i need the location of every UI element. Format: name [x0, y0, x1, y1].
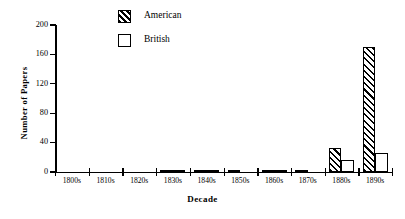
- x-axis-tick: [190, 168, 191, 176]
- x-axis-title: Decade: [0, 194, 405, 204]
- x-axis-tick: [122, 168, 123, 176]
- x-axis-tick: [392, 168, 393, 176]
- bar-american-1860s: [262, 170, 275, 172]
- bar-british-1830s: [173, 170, 186, 172]
- legend-item-british: British: [118, 28, 258, 52]
- bar-american-1840s: [194, 170, 207, 172]
- y-axis-tick-label: 160: [22, 50, 48, 58]
- x-axis-tick: [325, 168, 326, 176]
- y-axis-tick: [50, 113, 56, 114]
- bar-british-1890s: [375, 153, 388, 172]
- bar-american-1850s: [228, 170, 241, 172]
- x-axis-tick: [358, 168, 359, 176]
- bar-american-1890s: [363, 47, 376, 172]
- y-axis-tick-label: 0: [22, 168, 48, 176]
- y-axis-tick-label: 120: [22, 80, 48, 88]
- legend-label-british: British: [144, 35, 170, 45]
- y-axis-tick: [50, 142, 56, 143]
- bar-american-1870s: [295, 170, 308, 172]
- y-axis-tick-label: 80: [22, 109, 48, 117]
- y-axis-tick: [50, 83, 56, 84]
- legend-swatch-american-icon: [118, 10, 131, 23]
- y-axis-line: [55, 25, 57, 173]
- legend-label-american: American: [144, 11, 181, 21]
- y-axis-tick: [50, 24, 56, 25]
- bar-british-1860s: [274, 170, 287, 172]
- x-axis-tick: [224, 168, 225, 176]
- x-axis-tick: [55, 168, 56, 176]
- x-axis-tick: [291, 168, 292, 176]
- x-axis-tick: [156, 168, 157, 176]
- x-axis-tick: [89, 168, 90, 176]
- bar-american-1830s: [160, 170, 173, 172]
- x-axis-tick-label: 1890s: [355, 177, 395, 185]
- legend-item-american: American: [118, 4, 258, 28]
- bar-british-1840s: [207, 170, 220, 172]
- x-axis-tick: [257, 168, 258, 176]
- y-axis-tick-label: 200: [22, 21, 48, 29]
- y-axis-tick-label: 40: [22, 138, 48, 146]
- y-axis-tick: [50, 54, 56, 55]
- bar-american-1880s: [329, 148, 342, 172]
- legend-swatch-british-icon: [118, 34, 131, 47]
- chart-legend: American British: [118, 4, 258, 52]
- y-axis-tick-labels: 04080120160200: [18, 0, 48, 219]
- bar-british-1880s: [341, 160, 354, 172]
- bar-chart: American British Number of Papers 040801…: [0, 0, 405, 219]
